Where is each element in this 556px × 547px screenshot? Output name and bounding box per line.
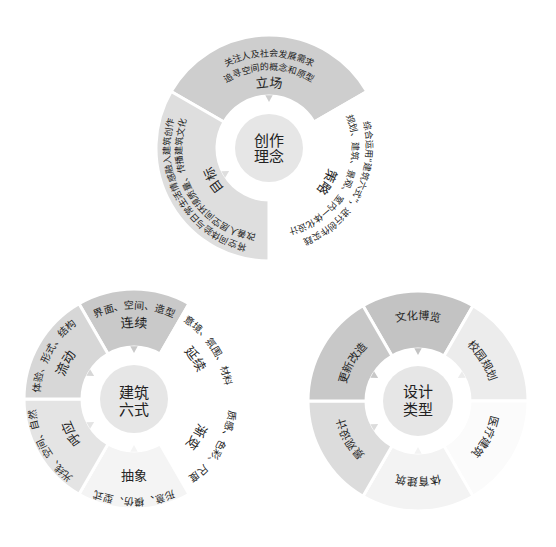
six-forms-center-line-1: 建筑 bbox=[119, 384, 149, 402]
design-types-center-line-2: 类型 bbox=[403, 401, 433, 419]
abstraction-label: 抽象 bbox=[121, 468, 147, 483]
notch-stance-icon bbox=[265, 95, 272, 102]
six-forms-wheel: 建筑 六式 界面、空间、造型 连续 意境、氛围、材料 延续 质感、色彩、尺度 渐… bbox=[24, 289, 244, 509]
notch-abstraction-icon bbox=[130, 445, 137, 452]
diagram-canvas: 创作 理念 关注人及社会发展需求 追寻空间的概念和原型 立场 综合运用“建筑六式… bbox=[0, 0, 556, 547]
notch-culture-icon bbox=[414, 348, 421, 355]
notch-continuity-icon bbox=[130, 346, 137, 353]
six-forms-center-line-2: 六式 bbox=[119, 401, 149, 419]
design-types-wheel: 设计 类型 文化博览 校园规划 医疗建筑 体育建筑 景观设计 更新改造 bbox=[308, 291, 528, 511]
concept-center-line-2: 理念 bbox=[254, 148, 284, 166]
notch-sports-icon bbox=[414, 447, 421, 454]
design-types-center-line-1: 设计 bbox=[403, 383, 433, 401]
concept-wheel: 创作 理念 关注人及社会发展需求 追寻空间的概念和原型 立场 综合运用“建筑六式… bbox=[156, 35, 382, 261]
